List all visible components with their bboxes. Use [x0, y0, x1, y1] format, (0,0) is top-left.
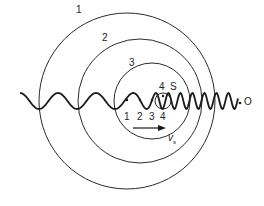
source-position-dot-1: [126, 99, 128, 101]
velocity-subscript: s: [173, 139, 176, 145]
position-label-4: 4: [160, 112, 166, 122]
doppler-diagram: [0, 0, 264, 206]
wavefront-label-2: 2: [102, 33, 108, 43]
position-label-1: 1: [124, 112, 130, 122]
velocity-arrow: [133, 125, 166, 131]
wavefront-label-4: 4: [159, 82, 165, 92]
position-label-2: 2: [137, 112, 143, 122]
source-label: S: [170, 82, 177, 92]
wavefront-label-3: 3: [129, 58, 135, 68]
wavefront-label-1: 1: [76, 5, 82, 15]
source-position-dot-3: [151, 99, 153, 101]
sound-wave: [20, 93, 238, 109]
position-label-3: 3: [149, 112, 155, 122]
source-position-dot-4: [162, 95, 164, 97]
observer-dot: [239, 102, 242, 105]
observer-label: O: [244, 97, 252, 107]
velocity-label: vs: [168, 133, 176, 145]
source-position-dot-2: [139, 99, 141, 101]
